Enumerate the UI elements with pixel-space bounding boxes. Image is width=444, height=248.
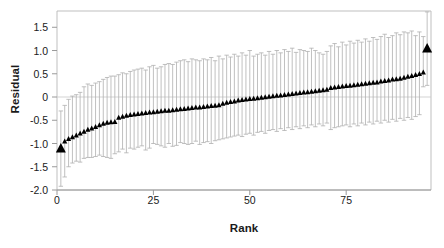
data-point-marker <box>417 71 422 76</box>
data-point-marker <box>216 102 221 107</box>
data-point-marker <box>124 113 129 118</box>
data-point-marker <box>224 100 229 105</box>
plot-area <box>0 0 444 248</box>
data-point-marker <box>398 76 403 81</box>
data-point-marker <box>120 114 125 119</box>
data-point-marker <box>405 74 410 79</box>
data-point-marker <box>97 122 102 127</box>
error-bars <box>59 12 430 186</box>
data-point-marker <box>116 115 121 120</box>
data-point-marker <box>386 78 391 83</box>
data-point-marker <box>85 127 90 132</box>
data-point-marker <box>413 72 418 77</box>
data-markers <box>56 43 432 152</box>
data-point-marker <box>232 98 237 103</box>
data-point-marker <box>421 70 426 75</box>
data-point-marker <box>374 79 379 84</box>
data-point-marker <box>401 75 406 80</box>
data-point-marker <box>220 101 225 106</box>
residual-rank-chart: Residual Rank 1.51.00.50-0.5-1.0-1.5-2.0… <box>0 0 444 248</box>
data-point-marker <box>409 73 414 78</box>
data-point-marker <box>101 121 106 126</box>
data-point-marker <box>89 125 94 130</box>
